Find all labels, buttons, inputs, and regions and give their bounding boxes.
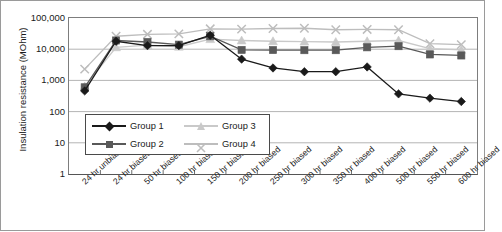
y-axis-tick-labels: 100,00010,0001,000100101 <box>13 1 65 232</box>
legend-marker-x-icon <box>184 137 218 151</box>
data-point-marker <box>269 46 276 53</box>
data-point-marker <box>301 47 308 54</box>
data-point-marker <box>426 94 434 102</box>
legend-marker-triangle-icon <box>184 119 218 133</box>
legend-label: Group 4 <box>222 139 256 149</box>
data-point-marker <box>457 97 465 105</box>
legend-label: Group 1 <box>130 121 164 131</box>
x-axis-tick-labels: 24 hr unbiased24 hr biased50 hr biased10… <box>68 177 478 232</box>
data-point-marker <box>238 46 245 53</box>
y-tick-label: 100 <box>13 105 65 116</box>
legend-item-group-2[interactable]: Group 2 <box>92 135 164 153</box>
legend-item-group-1[interactable]: Group 1 <box>92 117 164 135</box>
data-point-marker <box>364 44 371 51</box>
legend-marker-diamond-icon <box>92 119 126 133</box>
data-point-marker <box>426 51 433 58</box>
data-point-marker <box>332 47 339 54</box>
y-tick-label: 10,000 <box>13 43 65 54</box>
series-group-3 <box>80 35 465 90</box>
legend-label: Group 3 <box>222 121 256 131</box>
data-point-marker <box>458 52 465 59</box>
y-tick-label: 100,000 <box>13 12 65 23</box>
y-tick-label: 10 <box>13 136 65 147</box>
data-point-marker <box>269 64 277 72</box>
data-point-marker <box>300 68 308 76</box>
legend-item-group-3[interactable]: Group 3 <box>184 117 256 135</box>
legend-item-group-4[interactable]: Group 4 <box>184 135 256 153</box>
data-point-marker <box>395 43 402 50</box>
legend-label: Group 2 <box>130 139 164 149</box>
data-point-marker <box>80 65 88 73</box>
legend: Group 1Group 2Group 3Group 4 <box>85 114 270 155</box>
y-tick-label: 1,000 <box>13 74 65 85</box>
legend-marker-square-icon <box>92 137 126 151</box>
data-point-marker <box>332 68 340 76</box>
y-tick-label: 1 <box>13 168 65 179</box>
